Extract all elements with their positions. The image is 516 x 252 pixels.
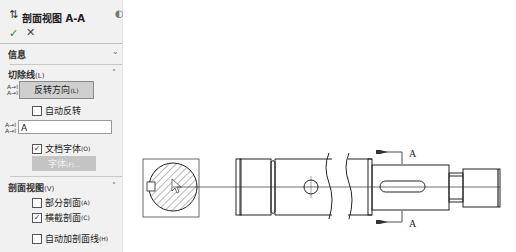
auto-flip-checkbox[interactable]: 自动反转 (32, 104, 81, 117)
section-preview[interactable] (143, 159, 199, 217)
section-info-header[interactable]: 信息 (8, 48, 26, 61)
shortcut: (V) (44, 185, 54, 193)
section-cutting-line-header[interactable]: 切除线(L) (8, 68, 44, 81)
panel-title: 剖面视图 A-A (22, 10, 85, 25)
checkbox-box[interactable]: ✓ (32, 213, 42, 223)
drawing-canvas[interactable]: A A (123, 0, 516, 252)
checkbox-label: 自动反转 (45, 104, 81, 117)
ok-button[interactable]: ✓ (9, 27, 18, 40)
section-label-top: A (409, 148, 417, 159)
section-label: 切除线 (8, 70, 35, 80)
shortcut: (F)... (66, 161, 80, 168)
button-label: 字体 (48, 159, 66, 169)
auto-hatching-checkbox[interactable]: 自动加剖面线(H) (32, 232, 108, 245)
section-view-icon: ⇅ (9, 8, 18, 21)
chevron-up-icon[interactable]: ˄ (112, 182, 116, 191)
shortcut: (L) (35, 72, 44, 80)
checkbox-label: 文档字体 (45, 142, 81, 155)
cancel-button[interactable]: ✕ (26, 26, 35, 39)
label-text-icon: A→IA→I (5, 122, 16, 134)
property-manager-panel: ⇅ 剖面视图 A-A ◐ ✓ ✕ 信息 ⌄ 切除线(L) ˄ A→IA→I 反转… (0, 0, 123, 252)
checkbox-box[interactable] (32, 198, 42, 208)
document-font-checkbox[interactable]: ✓文档字体(O) (32, 142, 90, 155)
checkbox-label: 横截剖面 (45, 211, 81, 224)
checkbox-box[interactable]: ✓ (32, 144, 42, 154)
section-label-bottom: A (409, 218, 417, 229)
panel-header: ⇅ 剖面视图 A-A ◐ ✓ ✕ (0, 0, 122, 44)
checkbox-box[interactable] (32, 234, 42, 244)
chevron-up-icon[interactable]: ˄ (112, 69, 116, 78)
section-view-header[interactable]: 剖面视图(V) (8, 181, 54, 194)
section-line[interactable]: A A (376, 148, 417, 229)
shaft-drawing: A A (123, 0, 516, 252)
flip-direction-button[interactable]: 反转方向(L) (19, 81, 94, 99)
font-button[interactable]: 字体(F)... (32, 156, 96, 171)
divider (10, 176, 122, 177)
section-label-input[interactable]: A (18, 120, 112, 134)
shortcut: (A) (81, 199, 90, 206)
section-label: 剖面视图 (8, 183, 44, 193)
shortcut: (O) (81, 145, 90, 152)
shortcut: (C) (81, 214, 90, 221)
shortcut: (H) (99, 235, 108, 242)
checkbox-label: 自动加剖面线 (45, 232, 99, 245)
divider (10, 64, 122, 65)
checkbox-label: 部分剖面 (45, 196, 81, 209)
partial-section-checkbox[interactable]: 部分剖面(A) (32, 196, 90, 209)
shortcut: (L) (70, 87, 78, 94)
checkbox-box[interactable] (32, 106, 42, 116)
slice-section-checkbox[interactable]: ✓横截剖面(C) (32, 211, 90, 224)
button-label: 反转方向 (34, 85, 70, 95)
flip-arrows-icon: A→IA→I (7, 84, 18, 96)
chevron-down-icon[interactable]: ⌄ (112, 47, 119, 56)
divider (0, 43, 122, 44)
